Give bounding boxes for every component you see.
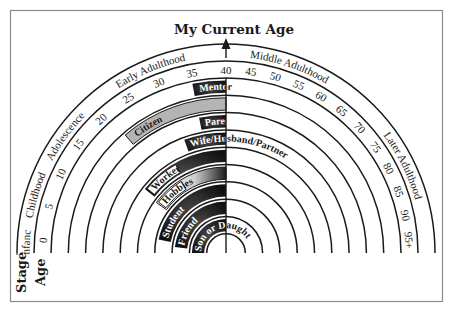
axis-label-age: Age — [33, 259, 48, 287]
life-career-rainbow-diagram: MentorMentorCitizenParentWife/Husband/Pa… — [0, 0, 451, 311]
role-label: Parent — [204, 115, 235, 128]
axis-label-stage: Stage — [14, 252, 29, 293]
age-tick-label: 95+ — [403, 231, 416, 249]
age-tick-label: 40 — [221, 64, 233, 76]
age-tick-label: 45 — [245, 65, 258, 78]
chart-title: My Current Age — [174, 21, 294, 37]
